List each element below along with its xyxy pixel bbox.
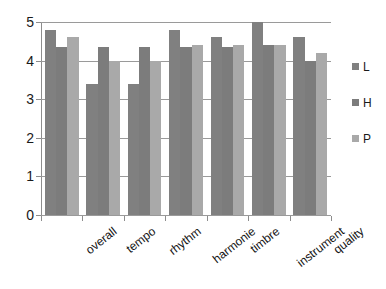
bar-group — [248, 22, 289, 215]
bar-timbre-P — [233, 45, 244, 215]
bar-harmonie-P — [192, 45, 203, 215]
legend-item-H[interactable]: H — [352, 96, 386, 109]
y-tick-label: 3 — [4, 92, 34, 106]
bar-rhythm-H — [139, 47, 150, 215]
x-axis-labels: overalltemporhythmharmonietimbreinstrume… — [0, 221, 386, 289]
legend-label: H — [363, 97, 372, 109]
bar-instrument-L — [252, 22, 263, 215]
y-tick-label: 1 — [4, 169, 34, 183]
bar-group — [207, 22, 248, 215]
bar-quality-L — [293, 37, 304, 215]
y-tick-label: 4 — [4, 54, 34, 68]
bar-quality-H — [305, 61, 316, 215]
x-axis-label-overall: overall — [83, 225, 119, 257]
plot-area — [41, 22, 331, 215]
y-axis: 543210 — [0, 22, 34, 215]
bar-group — [82, 22, 123, 215]
chart-legend: LHP — [352, 60, 386, 168]
bar-overall-P — [67, 37, 78, 215]
bar-group — [165, 22, 206, 215]
y-tick-label: 5 — [4, 15, 34, 29]
bar-overall-H — [56, 47, 67, 215]
bar-instrument-H — [263, 45, 274, 215]
legend-label: L — [363, 61, 370, 73]
bar-rhythm-P — [150, 61, 161, 215]
legend-label: P — [363, 133, 371, 145]
bar-harmonie-H — [180, 47, 191, 215]
bar-timbre-L — [211, 37, 222, 215]
x-axis-label-rhythm: rhythm — [166, 225, 203, 258]
legend-swatch-icon — [352, 99, 359, 106]
x-axis-label-tempo: tempo — [124, 225, 158, 256]
bar-chart: 543210 overalltemporhythmharmonietimbrei… — [0, 0, 386, 289]
bar-group — [290, 22, 331, 215]
bar-tempo-H — [98, 47, 109, 215]
bar-group — [41, 22, 82, 215]
bar-tempo-L — [86, 84, 97, 215]
legend-item-L[interactable]: L — [352, 60, 386, 73]
legend-swatch-icon — [352, 63, 359, 70]
legend-item-P[interactable]: P — [352, 132, 386, 145]
bar-instrument-P — [274, 45, 285, 215]
bar-rhythm-L — [128, 84, 139, 215]
bar-groups — [41, 22, 331, 215]
bar-group — [124, 22, 165, 215]
legend-swatch-icon — [352, 135, 359, 142]
bar-tempo-P — [109, 61, 120, 215]
bar-quality-P — [316, 53, 327, 215]
bar-harmonie-L — [169, 30, 180, 215]
y-tick-label: 2 — [4, 131, 34, 145]
bar-timbre-H — [222, 47, 233, 215]
bar-overall-L — [45, 30, 56, 215]
y-tick-label: 0 — [4, 208, 34, 222]
